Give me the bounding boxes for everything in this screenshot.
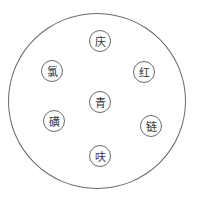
node-lv: 氯 [41,60,63,82]
node-fu: 呋 [89,145,111,167]
node-hong: 红 [133,61,155,83]
node-qing-top: 庆 [89,30,111,52]
node-lian: 链 [140,115,162,137]
node-huang: 磺 [43,110,65,132]
node-qing-center: 青 [89,91,111,113]
